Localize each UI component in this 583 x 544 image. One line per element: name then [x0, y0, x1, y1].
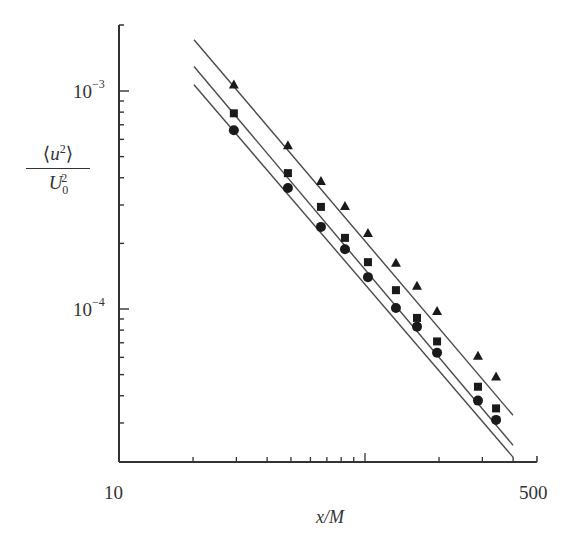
square-marker	[474, 383, 482, 391]
circle-marker	[412, 322, 422, 332]
x-tick-label-500: 500	[519, 482, 548, 504]
series-circles	[229, 125, 501, 425]
y-axis-label-denominator: U02	[26, 169, 90, 198]
series-squares	[230, 109, 500, 412]
circle-marker	[229, 125, 239, 135]
circle-marker	[363, 272, 373, 282]
fit-lines	[194, 40, 513, 457]
triangle-marker	[316, 176, 326, 185]
exponent: 2	[60, 142, 66, 156]
circle-marker	[340, 244, 350, 254]
triangle-marker	[229, 80, 239, 89]
circle-marker	[391, 303, 401, 313]
square-marker	[284, 169, 292, 177]
circle-marker	[316, 222, 326, 232]
y-tick-label-1e-3: 10−3	[73, 80, 105, 103]
square-marker	[492, 404, 500, 412]
fit-line-triangles	[194, 40, 513, 416]
data-markers	[229, 80, 501, 425]
triangle-marker	[363, 228, 373, 237]
fit-line-squares	[194, 67, 513, 446]
triangle-marker	[412, 281, 422, 290]
circle-marker	[473, 396, 483, 406]
y-tick-base: 10	[73, 299, 92, 320]
x-axis-label: x/M	[316, 507, 344, 528]
square-marker	[364, 258, 372, 266]
square-marker	[317, 203, 325, 211]
square-marker	[433, 337, 441, 345]
axes	[119, 25, 537, 462]
fit-line-circles	[194, 85, 513, 457]
y-tick-base: 10	[73, 81, 92, 102]
triangle-marker	[432, 306, 442, 315]
triangle-marker	[473, 351, 483, 360]
y-tick-label-1e-4: 10−4	[73, 298, 105, 321]
circle-marker	[432, 348, 442, 358]
circle-marker	[283, 183, 293, 193]
y-axis-label: ⟨u2⟩ U02	[26, 142, 90, 198]
triangle-marker	[491, 372, 501, 381]
series-triangles	[229, 80, 501, 381]
y-tick-exponent: −4	[92, 295, 105, 309]
square-marker	[392, 286, 400, 294]
y-tick-exponent: −3	[92, 77, 105, 91]
triangle-marker	[283, 140, 293, 149]
u-symbol: u	[50, 143, 60, 164]
triangle-marker	[391, 258, 401, 267]
square-marker	[413, 314, 421, 322]
y-axis-label-numerator: ⟨u2⟩	[26, 142, 90, 169]
square-marker	[230, 109, 238, 117]
circle-marker	[491, 415, 501, 425]
x-tick-label-10: 10	[104, 482, 123, 504]
triangle-marker	[340, 201, 350, 210]
subscript: 0	[62, 183, 68, 197]
square-marker	[341, 234, 349, 242]
